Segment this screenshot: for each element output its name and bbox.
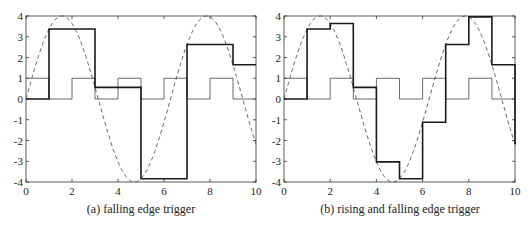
y-tick-label: -1 <box>14 114 23 126</box>
panel-falling-edge: 0246810-4-3-2-101234 <box>14 10 262 197</box>
caption-a: (a) falling edge trigger <box>87 202 195 216</box>
y-tick-label: 1 <box>276 72 282 84</box>
y-tick-label: 2 <box>276 52 282 64</box>
y-tick-label: 2 <box>18 52 24 64</box>
y-tick-label: 0 <box>276 93 282 105</box>
y-tick-label: -4 <box>272 176 282 188</box>
x-tick-label: 4 <box>115 185 121 197</box>
y-tick-label: -2 <box>272 135 281 147</box>
y-tick-label: -4 <box>14 176 24 188</box>
y-tick-label: -2 <box>14 135 23 147</box>
y-tick-label: 3 <box>18 31 24 43</box>
y-tick-label: 3 <box>276 31 282 43</box>
x-tick-label: 6 <box>420 185 426 197</box>
y-tick-label: -3 <box>14 155 24 167</box>
output-step-line <box>26 29 256 179</box>
chart-figure: 0246810-4-3-2-101234 0246810-4-3-2-10123… <box>0 0 532 227</box>
y-tick-label: 1 <box>18 72 24 84</box>
x-tick-label: 0 <box>281 185 287 197</box>
x-tick-label: 10 <box>510 185 522 197</box>
y-tick-label: -1 <box>272 114 281 126</box>
x-tick-label: 2 <box>327 185 333 197</box>
x-tick-label: 6 <box>161 185 167 197</box>
x-tick-label: 0 <box>23 185 29 197</box>
caption-b: (b) rising and falling edge trigger <box>320 202 480 216</box>
x-tick-label: 10 <box>251 185 263 197</box>
y-tick-label: 4 <box>276 10 282 22</box>
x-tick-label: 8 <box>207 185 213 197</box>
y-tick-label: -3 <box>272 155 282 167</box>
x-tick-label: 8 <box>466 185 472 197</box>
panel-rising-falling-edge: 0246810-4-3-2-101234 <box>272 10 521 197</box>
clock-step-line <box>284 78 515 99</box>
y-tick-label: 0 <box>18 93 24 105</box>
x-tick-label: 4 <box>374 185 380 197</box>
x-tick-label: 2 <box>69 185 75 197</box>
y-tick-label: 4 <box>18 10 24 22</box>
